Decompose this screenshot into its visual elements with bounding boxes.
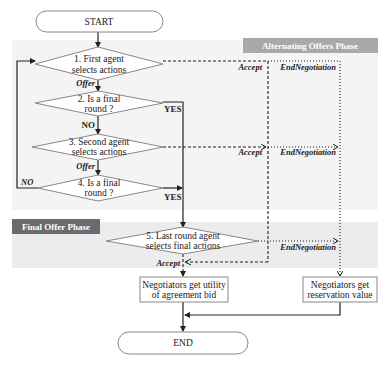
label-yes-1: YES [164,104,182,114]
label-no-2: NO [20,177,33,187]
svg-text:selects actions: selects actions [72,147,127,157]
reservation-box: Negotiators get reservation value [303,277,377,302]
svg-text:reservation value: reservation value [307,290,372,300]
svg-text:5. Last round agent: 5. Last round agent [146,231,220,241]
svg-text:4. Is a final: 4. Is a final [78,178,121,188]
label-accept-1: Accept [237,62,262,72]
svg-text:END: END [173,338,193,348]
svg-text:3. Second agent: 3. Second agent [69,137,130,147]
utility-box: Negotiators get utility of agreement bid [140,277,228,302]
svg-text:Final Offer Phase: Final Offer Phase [22,222,90,232]
label-no-1: NO [82,120,96,130]
svg-text:round ?: round ? [85,188,114,198]
svg-text:Negotiators get utility: Negotiators get utility [142,280,226,290]
label-endneg-1: EndNegotiation [279,62,336,72]
svg-text:round ?: round ? [85,104,114,114]
label-offer-1: Offer [76,78,95,88]
svg-text:Alternating Offers Phase: Alternating Offers Phase [262,41,358,51]
svg-text:START: START [85,17,114,27]
svg-text:2. Is a final: 2. Is a final [78,94,121,104]
svg-text:selects actions: selects actions [72,65,127,75]
svg-text:Negotiators get: Negotiators get [311,280,370,290]
edge-reservation-end [185,302,340,315]
label-accept-3: Accept [155,258,180,268]
alternating-phase-label: Alternating Offers Phase [243,38,378,53]
label-accept-2: Accept [237,147,262,157]
svg-text:selects final actions: selects final actions [146,241,221,251]
flowchart-canvas: Alternating Offers Phase Final Offer Pha… [0,0,391,368]
svg-text:of agreement bid: of agreement bid [152,290,217,300]
label-endneg-2: EndNegotiation [279,147,336,157]
end-node: END [118,332,248,354]
label-yes-2: YES [164,192,182,202]
svg-text:1. First agent: 1. First agent [74,54,124,64]
start-node: START [36,11,163,32]
final-phase-label: Final Offer Phase [12,219,100,234]
label-offer-2: Offer [76,161,95,171]
label-endneg-3: EndNegotiation [279,242,336,252]
